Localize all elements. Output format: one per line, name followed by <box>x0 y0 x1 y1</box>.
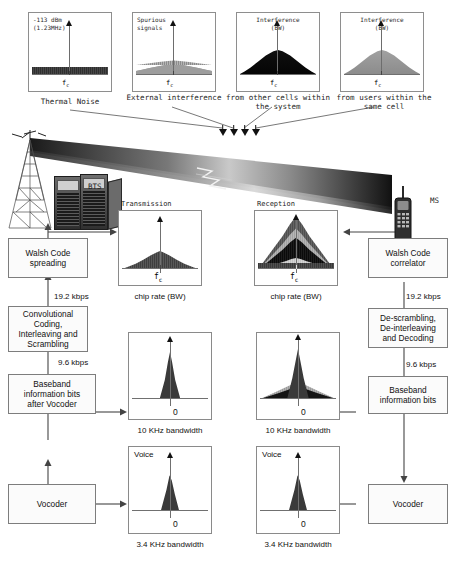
fc-label: fc <box>290 272 298 283</box>
box-walsh-code-correlator[interactable]: Walsh Code correlator <box>368 238 448 278</box>
vertical-axis <box>298 457 299 513</box>
interference-arrows <box>219 125 260 136</box>
rx-chiprate-caption: chip rate (BW) <box>248 292 344 301</box>
bts-label: BTS <box>88 182 102 191</box>
zero-tick <box>298 511 299 518</box>
box-baseband-info-bits[interactable]: Baseband information bits <box>368 376 448 414</box>
tx-rate-9-6: 9.6 kbps <box>58 358 88 367</box>
box-label: Baseband information bits after Vocoder <box>24 379 80 409</box>
chart-title: Reception <box>257 200 295 208</box>
box-baseband-info-bits-after-vocoder[interactable]: Baseband information bits after Vocoder <box>8 374 96 414</box>
zero-label: 0 <box>173 519 178 529</box>
zero-label: 0 <box>301 407 306 417</box>
chart-shadow <box>123 215 207 291</box>
zero-label: 0 <box>173 407 178 417</box>
vertical-axis <box>298 339 299 401</box>
chart-reception: Reception fc <box>254 210 338 286</box>
fc-tick <box>296 265 297 269</box>
leader-lines <box>70 107 374 128</box>
vertical-axis <box>170 341 171 403</box>
zero-tick <box>170 399 171 406</box>
chart-rx-voice: Voice 0 <box>256 446 340 534</box>
box-label: Walsh Code spreading <box>26 248 71 268</box>
fc-tick <box>160 265 161 269</box>
base-station-group <box>4 128 124 238</box>
zero-label: 0 <box>301 519 306 529</box>
box-vocoder-rx[interactable]: Vocoder <box>368 484 448 524</box>
rx-10khz-caption: 10 KHz bandwidth <box>250 426 346 435</box>
tx-chiprate-caption: chip rate (BW) <box>112 292 208 301</box>
tx-10khz-caption: 10 KHz bandwidth <box>122 426 218 435</box>
box-vocoder-tx[interactable]: Vocoder <box>8 484 96 524</box>
chart-title: Transmission <box>121 200 172 208</box>
diagram-connectors <box>0 0 456 561</box>
chart-rx-10khz: 0 <box>256 332 340 420</box>
box-label: Baseband information bits <box>380 385 436 405</box>
box-label: Convolutional Coding, Interleaving and S… <box>18 309 77 349</box>
box-walsh-code-spreading[interactable]: Walsh Code spreading <box>8 238 88 278</box>
rx-rate-19-2: 19.2 kbps <box>406 292 441 301</box>
rx-voice-caption: 3.4 KHz bandwidth <box>250 540 346 549</box>
chart-tx-voice: Voice 0 <box>128 446 212 534</box>
box-label: Walsh Code correlator <box>386 248 431 268</box>
antenna-icon <box>12 130 46 140</box>
tx-voice-caption: 3.4 KHz bandwidth <box>122 540 218 549</box>
box-descrambling-decoding[interactable]: De-scrambling, De-interleaving and Decod… <box>368 308 448 348</box>
chart-tx-10khz: 0 <box>128 332 212 420</box>
zero-tick <box>170 511 171 518</box>
vertical-axis <box>170 457 171 513</box>
tx-rate-19-2: 19.2 kbps <box>54 292 89 301</box>
diagram-root: -113 dBm (1.23MHz) fc Spurious signals f… <box>0 0 456 561</box>
fc-subscript: c <box>295 276 299 283</box>
box-label: De-scrambling, De-interleaving and Decod… <box>380 313 436 343</box>
chart-transmission: Transmission fc <box>118 210 202 286</box>
box-label: Vocoder <box>37 499 67 509</box>
zero-tick <box>298 399 299 406</box>
voice-label: Voice <box>262 450 282 459</box>
ms-label: MS <box>430 196 439 205</box>
rx-rate-9-6: 9.6 kbps <box>406 360 436 369</box>
voice-label: Voice <box>134 450 154 459</box>
box-label: Vocoder <box>393 499 423 509</box>
fc-label: fc <box>154 272 162 283</box>
bts-rack-1 <box>54 176 82 230</box>
fc-subscript: c <box>159 276 163 283</box>
box-convolutional-coding[interactable]: Convolutional Coding, Interleaving and S… <box>8 306 88 352</box>
